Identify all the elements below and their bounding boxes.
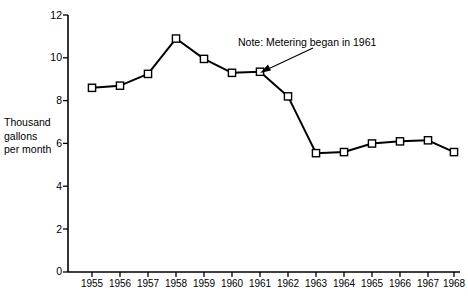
data-point-1956: [116, 82, 123, 89]
data-point-1959: [200, 55, 207, 62]
data-point-1966: [396, 138, 403, 145]
plot-area: [0, 0, 468, 304]
data-point-1965: [368, 140, 375, 147]
data-point-1967: [424, 137, 431, 144]
chart-figure: Thousand gallons per month 12 10 8 6 4 2…: [0, 0, 468, 304]
data-line-series: [92, 39, 454, 154]
data-point-1964: [340, 148, 347, 155]
data-point-markers: [88, 35, 457, 157]
data-point-1957: [144, 70, 151, 77]
data-point-1962: [284, 93, 291, 100]
data-point-1955: [88, 84, 95, 91]
data-point-1968: [450, 148, 457, 155]
data-point-1958: [172, 35, 179, 42]
data-point-1963: [312, 150, 319, 157]
data-point-1960: [228, 69, 235, 76]
annotation-arrow: [260, 48, 313, 73]
